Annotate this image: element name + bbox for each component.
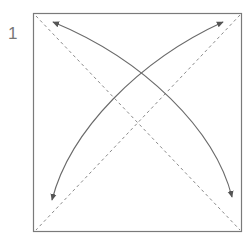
fold-diagram [0, 0, 250, 239]
